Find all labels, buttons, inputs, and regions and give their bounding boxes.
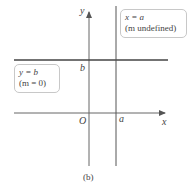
origin-label: O (79, 115, 86, 126)
vertical-line-equation: x = a (125, 12, 182, 23)
vertical-line-label-box: x = a (m undefined) (120, 9, 187, 38)
x-axis-label: x (162, 116, 166, 127)
b-intercept-label: b (80, 62, 85, 73)
horizontal-line-slope: (m = 0) (19, 78, 55, 89)
a-intercept-label: a (119, 113, 124, 124)
horizontal-line-equation: y = b (19, 67, 55, 78)
horizontal-line-label-box: y = b (m = 0) (14, 64, 60, 93)
vertical-line-slope: (m undefined) (125, 23, 182, 34)
figure-caption: (b) (83, 172, 94, 182)
y-axis-label: y (80, 5, 84, 16)
